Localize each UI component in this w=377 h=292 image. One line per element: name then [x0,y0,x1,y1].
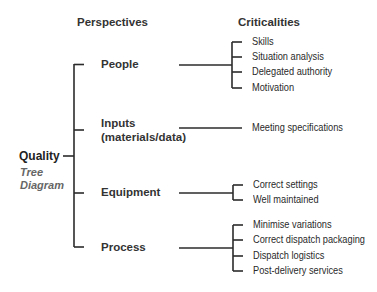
perspective-inputs-line1: Inputs [101,117,136,130]
criticality-post-delivery-services: Post-delivery services [253,264,343,276]
criticality-meeting-specifications: Meeting specifications [252,121,343,133]
criticality-situation-analysis: Situation analysis [252,50,324,62]
perspective-equipment: Equipment [101,186,160,199]
criticality-dispatch-logistics: Dispatch logistics [253,249,324,261]
perspective-people: People [101,58,139,71]
root-node-quality: Quality [19,149,60,163]
criticality-well-maintained: Well maintained [253,193,319,205]
perspectives-header: Perspectives [77,16,148,28]
perspective-inputs-line2: (materials/data) [101,131,186,144]
diagram-subtitle-line1: Tree [20,166,43,179]
criticalities-header: Criticalities [238,16,300,28]
criticality-correct-settings: Correct settings [253,178,318,190]
diagram-subtitle-line2: Diagram [20,179,64,192]
perspective-process: Process [101,241,146,254]
criticality-minimise-variations: Minimise variations [253,218,332,230]
criticality-skills: Skills [252,35,274,47]
criticality-correct-dispatch-packaging: Correct dispatch packaging [253,233,365,245]
criticality-motivation: Motivation [252,81,294,93]
criticality-delegated-authority: Delegated authority [252,65,332,77]
